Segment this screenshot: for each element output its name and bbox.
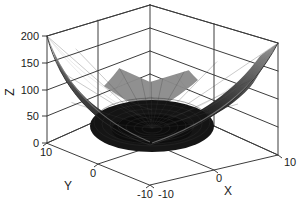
z-tick-label-200: 200 <box>21 30 39 42</box>
surface-far-slope <box>104 5 198 112</box>
y-tick-label-m10: -10 <box>137 188 153 200</box>
z-tick-label-100: 100 <box>21 84 39 96</box>
surface-radial-mesh <box>47 5 278 128</box>
z-tick-label-150: 150 <box>21 57 39 69</box>
x-tick-label-0: 0 <box>216 172 222 184</box>
x-axis: -10 0 10 X <box>150 155 296 200</box>
y-tick-label-10: 10 <box>40 146 52 158</box>
y-tick-label-0: 0 <box>90 167 96 179</box>
x-axis-title: X <box>224 184 232 198</box>
z-axis-title: Z <box>3 88 17 95</box>
z-tick-label-50: 50 <box>27 110 39 122</box>
x-tick-label-m10: -10 <box>158 188 174 200</box>
x-tick-label-10: 10 <box>284 156 296 168</box>
z-axis: 200 150 100 50 0 Z <box>3 30 47 149</box>
surface-plot-figure: 200 150 100 50 0 Z 10 0 -10 Y -10 0 10 X <box>0 0 301 216</box>
z-tick-label-0: 0 <box>33 137 39 149</box>
y-axis-title: Y <box>64 179 72 193</box>
plot-canvas: 200 150 100 50 0 Z 10 0 -10 Y -10 0 10 X <box>0 0 301 216</box>
surface-mesh <box>47 5 278 152</box>
x-tick-10 <box>278 155 282 158</box>
